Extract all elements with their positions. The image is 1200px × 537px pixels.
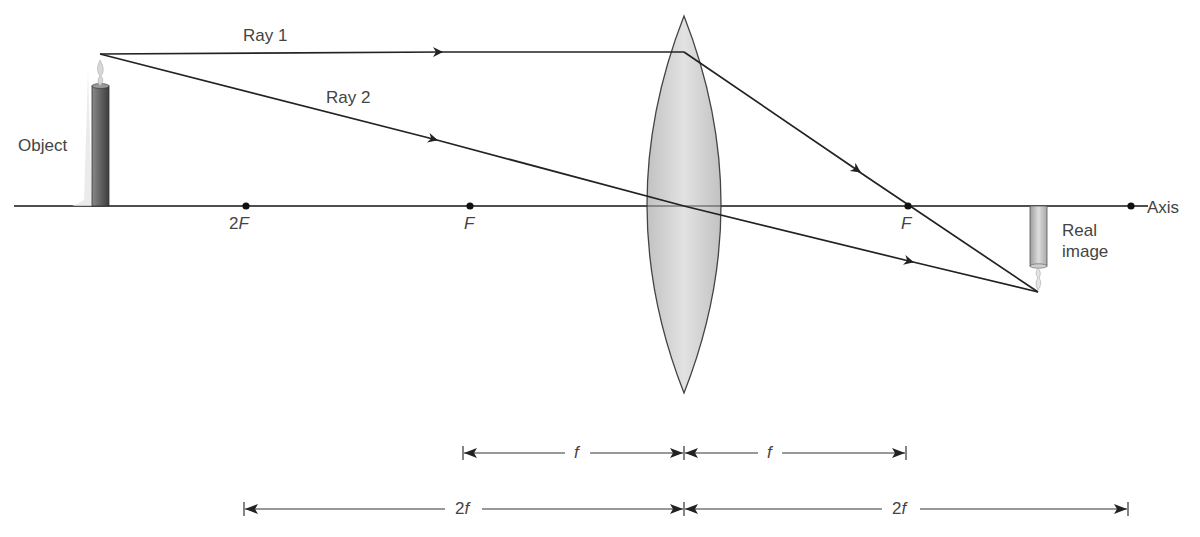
dimension-2f-right [685, 502, 1128, 516]
real-image-candle-icon [1030, 206, 1047, 290]
label-F-left: F [464, 215, 474, 232]
real-image-label-line2: image [1062, 243, 1108, 260]
ray-diagram [0, 0, 1200, 537]
dimension-2f-right-label: 2f [892, 500, 906, 517]
point-F-left [466, 202, 473, 209]
real-image-label-line1: Real [1062, 222, 1097, 239]
dimension-f-right-label: f [767, 444, 772, 461]
dimension-2f-left-label: 2f [455, 500, 469, 517]
point-2F-left [242, 202, 249, 209]
ray-1 [100, 52, 1038, 292]
converging-lens [647, 16, 721, 393]
object-label: Object [18, 137, 67, 154]
ray-2-label: Ray 2 [326, 89, 370, 106]
dimension-f-right [685, 446, 906, 460]
label-F-right: F [901, 215, 911, 232]
label-2F-left: 2F [229, 215, 249, 232]
dimension-f-left-label: f [574, 444, 579, 461]
axis-label: Axis [1147, 199, 1179, 216]
object-candle-icon [72, 60, 109, 206]
point-F-right [904, 202, 911, 209]
ray-2 [100, 54, 1038, 292]
point-2F-right [1127, 202, 1134, 209]
ray-1-label: Ray 1 [243, 27, 287, 44]
